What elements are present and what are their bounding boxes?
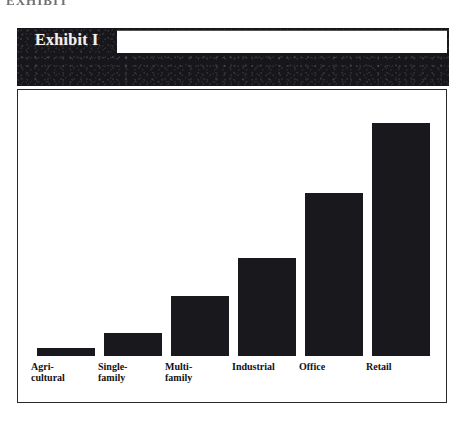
chart-bar — [37, 348, 95, 356]
bar-category-label-line: Multi- — [165, 361, 237, 372]
chart-plot-area: Agri-culturalSingle-familyMulti-familyIn… — [18, 90, 446, 402]
exhibit-title-slot — [117, 30, 447, 53]
bar-category-label: Retail — [366, 356, 438, 372]
bar-category-label: Multi-family — [165, 356, 237, 383]
chart-bar — [372, 123, 430, 356]
bar-category-label-line: Industrial — [232, 361, 304, 372]
cropped-header-fragment: EXHIBIT — [6, 0, 116, 5]
bar-category-label: Agri-cultural — [31, 356, 103, 383]
bar-category-label-line: Office — [299, 361, 371, 372]
chart-bar — [238, 258, 296, 356]
bar-category-label-line: family — [165, 372, 237, 383]
bar-category-label-line: Single- — [98, 361, 170, 372]
exhibit-label: Exhibit I — [35, 31, 99, 49]
bar-category-label-line: Retail — [366, 361, 438, 372]
chart-bar — [104, 333, 162, 356]
bar-category-label-line: Agri- — [31, 361, 103, 372]
chart-panel: Agri-culturalSingle-familyMulti-familyIn… — [17, 89, 447, 403]
chart-bar — [171, 296, 229, 356]
chart-bar — [305, 193, 363, 356]
bar-category-label-line: cultural — [31, 372, 103, 383]
bar-category-label: Industrial — [232, 356, 304, 372]
bar-category-label-line: family — [98, 372, 170, 383]
bar-category-label: Single-family — [98, 356, 170, 383]
exhibit-figure: Exhibit I Agri-culturalSingle-familyMult… — [17, 28, 449, 404]
bar-category-label: Office — [299, 356, 371, 372]
exhibit-header-band: Exhibit I — [17, 28, 449, 86]
